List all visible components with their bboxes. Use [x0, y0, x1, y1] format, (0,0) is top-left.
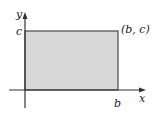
- width-label-b: b: [114, 97, 121, 110]
- x-axis-label: x: [139, 92, 146, 105]
- height-label-c: c: [16, 25, 22, 38]
- shaded-rectangle: [25, 31, 118, 90]
- y-axis-arrow-icon: [23, 12, 28, 19]
- diagram-canvas: y c (b, c) b x: [0, 0, 156, 114]
- y-axis-label: y: [15, 8, 23, 21]
- corner-label: (b, c): [121, 23, 150, 36]
